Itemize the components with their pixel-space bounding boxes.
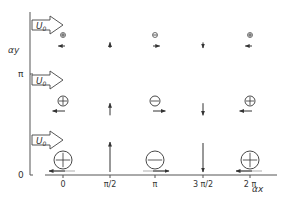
x-tick-label: π: [153, 180, 158, 189]
positive-charge-icon: [248, 33, 253, 38]
y-axis-label: αy: [8, 45, 20, 55]
positive-charge-icon: [238, 151, 262, 171]
positive-charge-icon: [245, 96, 255, 106]
positive-charge-icon: [51, 151, 75, 171]
grid-cell: [143, 151, 169, 171]
row-middle: [53, 96, 255, 115]
x-tick-labels: 0π/2π3 π/22 π: [60, 175, 256, 189]
wave-flow-diagram: αy αx π0 0π/2π3 π/22 π U0U0U0: [0, 0, 303, 203]
x-tick-label: 0: [60, 180, 65, 189]
u0-arrow: U0: [32, 71, 63, 89]
grid-cell: [58, 33, 65, 47]
x-tick-label: 3 π/2: [193, 180, 213, 189]
grid-cell: [150, 96, 165, 111]
grid-cell: [53, 96, 68, 111]
diagram-canvas: αy αx π0 0π/2π3 π/22 π U0U0U0: [0, 0, 303, 203]
y-tick-label: 0: [18, 170, 24, 180]
positive-charge-icon: [58, 96, 68, 106]
row-top: [58, 33, 252, 49]
row-bottom: [49, 142, 262, 172]
y-tick-labels: π0: [18, 69, 24, 180]
u0-flow-arrows: U0U0U0: [32, 16, 63, 149]
charge-rows: [49, 33, 262, 173]
axes: αy αx π0 0π/2π3 π/22 π: [8, 12, 277, 194]
x-tick-label: π/2: [104, 180, 117, 189]
negative-charge-icon: [150, 96, 160, 106]
grid-cell: [153, 33, 160, 47]
y-tick-label: π: [18, 69, 24, 79]
grid-cell: [240, 96, 255, 111]
x-tick-label: 2 π: [244, 180, 257, 189]
negative-charge-icon: [153, 33, 158, 38]
grid-cell: [236, 151, 262, 171]
negative-charge-icon: [143, 151, 167, 171]
u0-arrow: U0: [32, 131, 63, 149]
positive-charge-icon: [61, 33, 66, 38]
grid-cell: [245, 33, 252, 47]
grid-cell: [49, 151, 75, 171]
u0-arrow: U0: [32, 16, 63, 34]
